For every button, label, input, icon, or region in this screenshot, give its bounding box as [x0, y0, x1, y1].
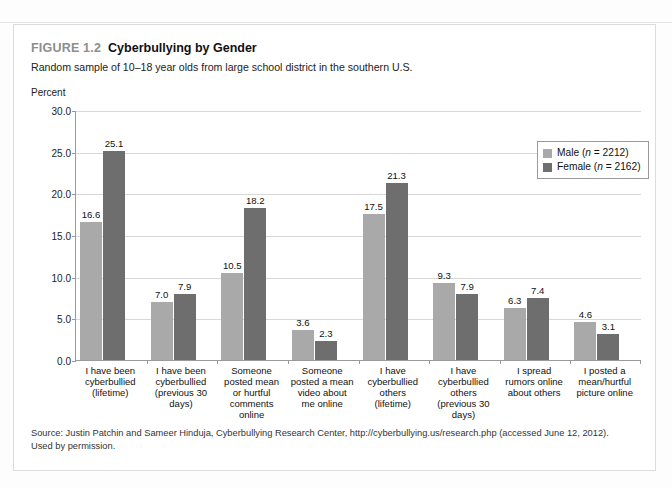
x-axis-category-label: Someoneposted a meanvideo aboutme online — [287, 365, 358, 409]
bar-male: 17.5 — [363, 214, 385, 360]
bar-female: 7.9 — [456, 294, 478, 360]
bar-male: 9.3 — [433, 283, 455, 361]
x-axis-category-label: I spreadrumors onlineabout others — [499, 365, 570, 398]
bar-group: 9.37.9 — [429, 111, 500, 360]
x-axis-category-label: Someoneposted meanor hurtfulcommentsonli… — [216, 365, 287, 420]
bar-male: 16.6 — [80, 222, 102, 360]
bar-female: 25.1 — [103, 151, 125, 360]
y-axis-tick-label: 0.0 — [57, 356, 71, 367]
x-axis-tick-mark — [429, 360, 430, 364]
figure-subtitle: Random sample of 10–18 year olds from la… — [31, 61, 413, 73]
bar-group: 10.518.2 — [217, 111, 288, 360]
y-axis-tick-label: 25.0 — [52, 147, 71, 158]
legend-label-female: Female (n = 2162) — [557, 160, 641, 174]
bar-value-label: 3.1 — [591, 321, 625, 332]
x-axis-category-label: I havecyberbulliedothers(previous 30days… — [428, 365, 499, 420]
y-axis-tick-label: 15.0 — [52, 231, 71, 242]
bar-female: 18.2 — [244, 208, 266, 360]
x-axis-tick-mark — [570, 360, 571, 364]
bar-value-label: 7.9 — [168, 281, 202, 292]
source-line-1: Source: Justin Patchin and Sameer Hinduj… — [31, 427, 631, 440]
bar-value-label: 2.3 — [309, 328, 343, 339]
source-note: Source: Justin Patchin and Sameer Hinduj… — [31, 427, 631, 453]
source-line-2: Used by permission. — [31, 440, 631, 453]
figure-number: FIGURE 1.2 — [31, 41, 101, 55]
figure-heading: FIGURE 1.2Cyberbullying by Gender — [31, 38, 257, 56]
y-axis-tick-mark — [72, 361, 76, 362]
chart-legend: Male (n = 2212) Female (n = 2162) — [537, 141, 649, 179]
bar-female: 7.4 — [527, 298, 549, 360]
bar-group: 7.07.9 — [147, 111, 218, 360]
bar-group: 3.62.3 — [288, 111, 359, 360]
legend-item-female: Female (n = 2162) — [543, 160, 641, 174]
x-axis-tick-mark — [288, 360, 289, 364]
y-axis-tick-label: 20.0 — [52, 189, 71, 200]
page-title: Cyberbullying by Gender — [108, 41, 257, 55]
bar-group: 17.521.3 — [359, 111, 430, 360]
bar-male: 6.3 — [504, 308, 526, 361]
bar-female: 7.9 — [174, 294, 196, 360]
legend-item-male: Male (n = 2212) — [543, 146, 641, 160]
y-axis-title: Percent — [31, 87, 65, 98]
legend-swatch-male — [543, 149, 552, 158]
bar-male: 10.5 — [221, 273, 243, 361]
legend-label-male: Male (n = 2212) — [557, 146, 629, 160]
bar-group: 16.625.1 — [76, 111, 147, 360]
figure-container: FIGURE 1.2Cyberbullying by Gender Random… — [13, 24, 656, 471]
y-axis-tick-label: 30.0 — [52, 106, 71, 117]
bar-female: 2.3 — [315, 341, 337, 360]
x-axis-tick-mark — [359, 360, 360, 364]
bar-value-label: 4.6 — [568, 309, 602, 320]
x-axis-tick-mark — [147, 360, 148, 364]
y-axis-tick-label: 5.0 — [57, 314, 71, 325]
bar-female: 3.1 — [597, 334, 619, 360]
y-axis-tick-label: 10.0 — [52, 272, 71, 283]
x-axis-category-label: I have beencyberbullied(previous 30days) — [146, 365, 217, 409]
bar-value-label: 21.3 — [380, 170, 414, 181]
bar-value-label: 3.6 — [286, 317, 320, 328]
bar-male: 7.0 — [151, 302, 173, 360]
chart-area: 0.05.010.015.020.025.030.016.625.17.07.9… — [31, 103, 641, 393]
bar-value-label: 25.1 — [97, 138, 131, 149]
legend-swatch-female — [543, 163, 552, 172]
bar-value-label: 7.4 — [521, 285, 555, 296]
x-axis-tick-mark — [500, 360, 501, 364]
bar-value-label: 18.2 — [238, 195, 272, 206]
page-top-rule — [0, 22, 672, 23]
x-axis-category-label: I posted amean/hurtfulpicture online — [569, 365, 640, 398]
x-axis-tick-mark — [640, 360, 641, 364]
bar-female: 21.3 — [386, 183, 408, 361]
bar-value-label: 9.3 — [427, 270, 461, 281]
x-axis-tick-mark — [217, 360, 218, 364]
x-axis-category-label: I have beencyberbullied(lifetime) — [75, 365, 146, 398]
x-axis-category-label: I havecyberbulliedothers(lifetime) — [358, 365, 429, 409]
bar-value-label: 7.9 — [450, 281, 484, 292]
